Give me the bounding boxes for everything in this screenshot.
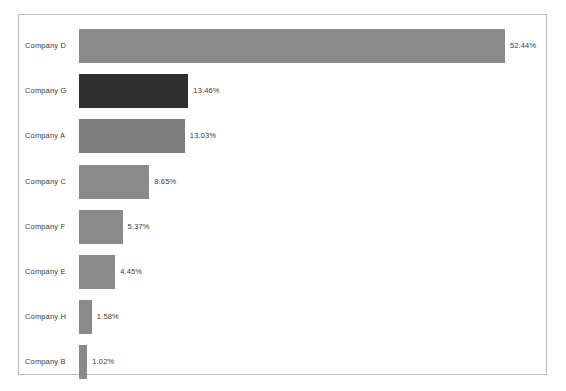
bar-row: Company C8.65%	[19, 165, 546, 199]
bar-track: 4.45%	[79, 255, 546, 289]
bar-value-label: 4.45%	[115, 255, 142, 289]
bar-row: Company E4.45%	[19, 255, 546, 289]
bar-value-label: 13.03%	[185, 119, 216, 153]
category-label: Company D	[25, 29, 79, 63]
bar-row: Company G13.46%	[19, 74, 546, 108]
bar[interactable]	[79, 300, 92, 334]
category-label: Company G	[25, 74, 79, 108]
category-label: Company A	[25, 119, 79, 153]
bar-row: Company H1.58%	[19, 300, 546, 334]
bar-row: Company D52.44%	[19, 29, 546, 63]
bar[interactable]	[79, 29, 505, 63]
bar[interactable]	[79, 119, 185, 153]
chart-frame: Company D52.44%Company G13.46%Company A1…	[18, 14, 547, 375]
bar-row: Company A13.03%	[19, 119, 546, 153]
category-label: Company B	[25, 345, 79, 379]
bar-track: 13.03%	[79, 119, 546, 153]
bar[interactable]	[79, 345, 87, 379]
bar-row: Company F5.37%	[19, 210, 546, 244]
bar-value-label: 13.46%	[188, 74, 219, 108]
category-label: Company F	[25, 210, 79, 244]
bar-value-label: 8.65%	[149, 165, 176, 199]
category-label: Company C	[25, 165, 79, 199]
bar-track: 13.46%	[79, 74, 546, 108]
bar-track: 5.37%	[79, 210, 546, 244]
bar[interactable]	[79, 74, 188, 108]
bar-track: 52.44%	[79, 29, 546, 63]
bar-chart-plot-area: Company D52.44%Company G13.46%Company A1…	[19, 15, 546, 374]
bar[interactable]	[79, 165, 149, 199]
bar-track: 1.58%	[79, 300, 546, 334]
bar-value-label: 1.58%	[92, 300, 119, 334]
bar[interactable]	[79, 210, 123, 244]
bar-value-label: 5.37%	[123, 210, 150, 244]
category-label: Company E	[25, 255, 79, 289]
bar[interactable]	[79, 255, 115, 289]
bar-value-label: 52.44%	[505, 29, 536, 63]
bar-row: Company B1.02%	[19, 345, 546, 379]
bar-track: 8.65%	[79, 165, 546, 199]
bar-track: 1.02%	[79, 345, 546, 379]
category-label: Company H	[25, 300, 79, 334]
bar-value-label: 1.02%	[87, 345, 114, 379]
